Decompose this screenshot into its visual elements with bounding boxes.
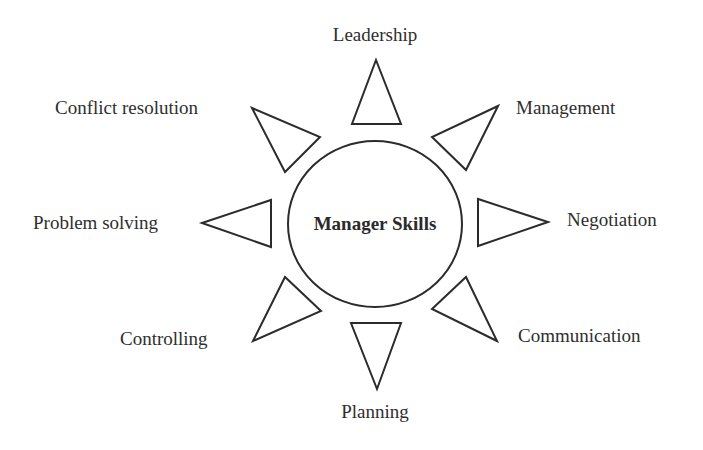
- center-label: Manager Skills: [314, 213, 437, 235]
- triangle-communication: [432, 277, 497, 341]
- label-leadership: Leadership: [333, 24, 417, 46]
- triangle-controlling: [253, 277, 321, 341]
- triangle-negotiation: [478, 199, 548, 246]
- triangle-management: [432, 106, 498, 170]
- label-problem-solving: Problem solving: [33, 212, 158, 234]
- triangle-conflict-resolution: [252, 108, 320, 172]
- triangle-leadership: [352, 60, 401, 124]
- label-communication: Communication: [518, 325, 640, 347]
- triangle-planning: [351, 323, 401, 389]
- label-conflict-resolution: Conflict resolution: [55, 97, 198, 119]
- label-controlling: Controlling: [120, 328, 208, 350]
- label-negotiation: Negotiation: [567, 209, 657, 231]
- label-management: Management: [516, 97, 615, 119]
- triangle-problem-solving: [202, 200, 271, 247]
- label-planning: Planning: [341, 401, 409, 423]
